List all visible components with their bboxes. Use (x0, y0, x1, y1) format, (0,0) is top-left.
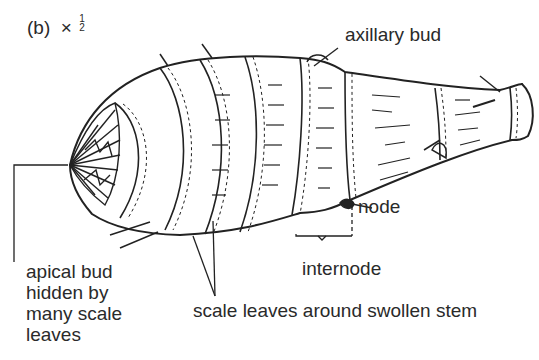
ring-stipple (123, 57, 518, 234)
label-node: node (358, 196, 400, 217)
apical-bud-region (70, 103, 120, 205)
corm-diagram: (b) × 1 2 axillary bud node internode ap… (0, 0, 539, 360)
scale-fraction: 1 2 (79, 14, 85, 32)
label-apical-bud: apical bud hidden by many scale leaves (26, 261, 166, 345)
axillary-buds (110, 44, 500, 248)
internode-bracket (296, 234, 352, 236)
scale-leaves-leader-1 (193, 236, 215, 296)
label-scale-leaves: scale leaves around swollen stem (193, 300, 477, 321)
figure-label: (b) × 1 2 (27, 14, 85, 38)
apical-bud-leader (14, 165, 68, 262)
scale-symbol: × (61, 17, 72, 38)
node-rings (115, 57, 512, 234)
label-internode: internode (302, 258, 381, 279)
label-axillary-bud: axillary bud (345, 24, 441, 45)
stem-tip-outline (512, 84, 533, 140)
